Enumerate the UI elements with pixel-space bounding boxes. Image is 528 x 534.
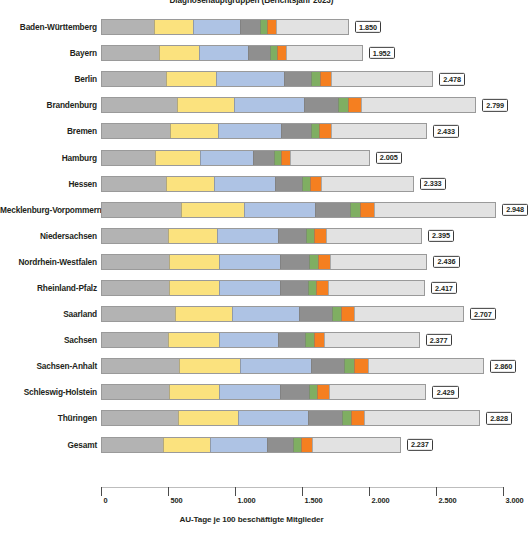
bar-segment-4[interactable] xyxy=(278,229,306,243)
bar-segment-5[interactable] xyxy=(342,411,352,425)
stacked-bar[interactable] xyxy=(101,410,480,426)
bar-segment-1[interactable] xyxy=(102,46,159,60)
bar-segment-6[interactable] xyxy=(281,151,290,165)
bar-segment-1[interactable] xyxy=(102,281,169,295)
bar-segment-7[interactable] xyxy=(286,46,363,60)
bar-segment-1[interactable] xyxy=(102,177,166,191)
bar-segment-3[interactable] xyxy=(200,151,253,165)
bar-segment-1[interactable] xyxy=(102,359,179,373)
bar-segment-3[interactable] xyxy=(232,307,300,321)
bar-segment-6[interactable] xyxy=(317,385,329,399)
bar-segment-4[interactable] xyxy=(299,307,331,321)
bar-segment-2[interactable] xyxy=(159,46,200,60)
bar-segment-2[interactable] xyxy=(154,20,193,34)
bar-segment-4[interactable] xyxy=(275,177,302,191)
bar-segment-2[interactable] xyxy=(163,438,210,452)
bar-segment-2[interactable] xyxy=(168,333,219,347)
bar-segment-6[interactable] xyxy=(314,333,325,347)
bar-segment-1[interactable] xyxy=(102,151,155,165)
bar-segment-2[interactable] xyxy=(166,177,214,191)
stacked-bar[interactable] xyxy=(101,45,363,61)
stacked-bar[interactable] xyxy=(101,437,401,453)
bar-segment-1[interactable] xyxy=(102,124,170,138)
bar-segment-6[interactable] xyxy=(310,177,321,191)
bar-segment-5[interactable] xyxy=(274,151,281,165)
bar-segment-7[interactable] xyxy=(290,151,370,165)
stacked-bar[interactable] xyxy=(101,228,422,244)
bar-segment-3[interactable] xyxy=(244,203,316,217)
bar-segment-1[interactable] xyxy=(102,307,175,321)
bar-segment-2[interactable] xyxy=(175,307,232,321)
bar-segment-7[interactable] xyxy=(368,359,485,373)
bar-segment-1[interactable] xyxy=(102,72,166,86)
bar-segment-3[interactable] xyxy=(210,438,267,452)
bar-segment-6[interactable] xyxy=(314,229,325,243)
bar-segment-5[interactable] xyxy=(338,98,348,112)
bar-segment-3[interactable] xyxy=(240,359,310,373)
bar-segment-1[interactable] xyxy=(102,385,169,399)
bar-segment-7[interactable] xyxy=(354,307,464,321)
bar-segment-4[interactable] xyxy=(278,333,305,347)
bar-segment-6[interactable] xyxy=(277,46,286,60)
stacked-bar[interactable] xyxy=(101,71,433,87)
bar-segment-2[interactable] xyxy=(170,124,218,138)
bar-segment-2[interactable] xyxy=(181,203,243,217)
bar-segment-2[interactable] xyxy=(177,98,235,112)
stacked-bar[interactable] xyxy=(101,332,420,348)
bar-segment-1[interactable] xyxy=(102,229,168,243)
bar-segment-7[interactable] xyxy=(321,177,413,191)
bar-segment-3[interactable] xyxy=(214,177,275,191)
bar-segment-3[interactable] xyxy=(218,124,281,138)
stacked-bar[interactable] xyxy=(101,358,484,374)
bar-segment-3[interactable] xyxy=(219,255,281,269)
bar-segment-6[interactable] xyxy=(341,307,354,321)
bar-segment-7[interactable] xyxy=(312,438,401,452)
stacked-bar[interactable] xyxy=(101,176,414,192)
bar-segment-4[interactable] xyxy=(281,124,311,138)
bar-segment-3[interactable] xyxy=(238,411,308,425)
bar-segment-3[interactable] xyxy=(219,385,281,399)
bar-segment-2[interactable] xyxy=(168,229,217,243)
bar-segment-6[interactable] xyxy=(348,98,361,112)
bar-segment-4[interactable] xyxy=(311,359,345,373)
bar-segment-6[interactable] xyxy=(267,20,275,34)
bar-segment-5[interactable] xyxy=(311,72,319,86)
bar-segment-4[interactable] xyxy=(267,438,293,452)
bar-segment-2[interactable] xyxy=(179,359,240,373)
stacked-bar[interactable] xyxy=(101,306,464,322)
stacked-bar[interactable] xyxy=(101,384,426,400)
bar-segment-7[interactable] xyxy=(331,72,433,86)
bar-segment-7[interactable] xyxy=(330,255,428,269)
bar-segment-2[interactable] xyxy=(166,72,216,86)
bar-segment-7[interactable] xyxy=(328,281,425,295)
bar-segment-5[interactable] xyxy=(350,203,360,217)
bar-segment-3[interactable] xyxy=(216,72,284,86)
bar-segment-6[interactable] xyxy=(316,281,328,295)
bar-segment-4[interactable] xyxy=(248,46,270,60)
bar-segment-4[interactable] xyxy=(253,151,274,165)
bar-segment-3[interactable] xyxy=(219,281,280,295)
bar-segment-2[interactable] xyxy=(169,385,219,399)
bar-segment-7[interactable] xyxy=(324,333,419,347)
stacked-bar[interactable] xyxy=(101,202,496,218)
bar-segment-2[interactable] xyxy=(169,255,219,269)
stacked-bar[interactable] xyxy=(101,19,349,35)
bar-segment-6[interactable] xyxy=(351,411,364,425)
bar-segment-5[interactable] xyxy=(344,359,354,373)
bar-segment-7[interactable] xyxy=(326,229,422,243)
bar-segment-5[interactable] xyxy=(309,385,318,399)
stacked-bar[interactable] xyxy=(101,97,476,113)
bar-segment-2[interactable] xyxy=(169,281,219,295)
bar-segment-4[interactable] xyxy=(280,255,309,269)
bar-segment-4[interactable] xyxy=(280,385,308,399)
bar-segment-7[interactable] xyxy=(364,411,479,425)
bar-segment-1[interactable] xyxy=(102,20,154,34)
bar-segment-5[interactable] xyxy=(308,281,316,295)
bar-segment-5[interactable] xyxy=(305,333,313,347)
bar-segment-5[interactable] xyxy=(306,229,314,243)
bar-segment-7[interactable] xyxy=(374,203,496,217)
bar-segment-4[interactable] xyxy=(304,98,338,112)
bar-segment-3[interactable] xyxy=(217,229,278,243)
bar-segment-1[interactable] xyxy=(102,255,169,269)
stacked-bar[interactable] xyxy=(101,123,427,139)
